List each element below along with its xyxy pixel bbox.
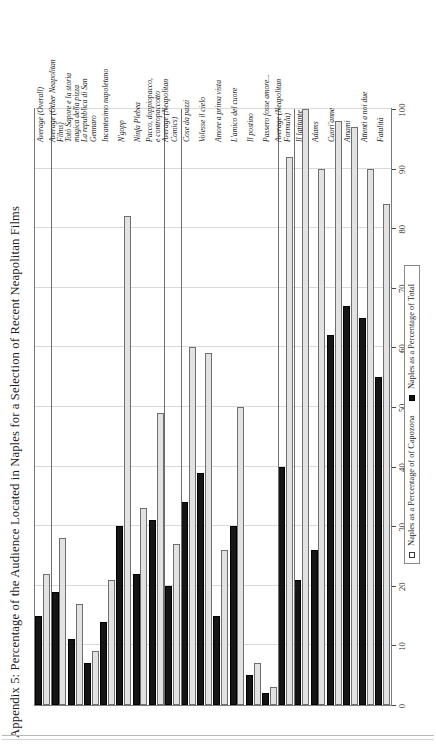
category-label: Incantesimo napoletano: [102, 12, 110, 142]
bar-total: [327, 335, 334, 705]
axis-tick: [392, 705, 396, 706]
bar-group: [359, 109, 375, 705]
bar-group: [164, 109, 180, 705]
bar-group: [342, 109, 358, 705]
legend-item-capozona: Naples as a Percentage of of Capozona: [407, 415, 416, 558]
axis-tick-label: 80: [397, 225, 407, 234]
axis-tick: [392, 347, 396, 348]
bar-total: [294, 580, 301, 705]
bar-group: [132, 109, 148, 705]
bar-capozona: [59, 538, 66, 705]
bar-group: [197, 109, 213, 705]
bar-capozona: [205, 353, 212, 705]
category-label: Amami: [344, 12, 352, 142]
bar-capozona: [254, 663, 261, 705]
axis-tick-label: 10: [397, 642, 407, 651]
bar-capozona: [270, 687, 277, 705]
bar-group: [262, 109, 278, 705]
bar-total: [165, 586, 172, 705]
category-label: Adams: [312, 12, 320, 142]
bar-capozona: [43, 574, 50, 705]
bar-capozona: [318, 169, 325, 705]
bar-total: [68, 639, 75, 705]
rotated-figure-wrapper: Appendix 5: Percentage of the Audience L…: [0, 0, 436, 746]
bar-capozona: [335, 121, 342, 705]
legend-swatch-light-icon: [409, 552, 415, 558]
group-separator: [294, 109, 295, 705]
bar-total: [133, 574, 140, 705]
axis-tick-label: 20: [397, 583, 407, 592]
category-label: Totò Sapore e la storia magica della piz…: [65, 12, 82, 142]
bar-group: [51, 109, 67, 705]
page-title: Appendix 5: Percentage of the Audience L…: [8, 8, 23, 738]
group-separator: [164, 109, 165, 705]
bar-group: [310, 109, 326, 705]
bar-total: [343, 306, 350, 705]
category-label: Ninfa Plebea: [134, 12, 142, 142]
page-rule-top: [2, 735, 434, 736]
bar-total: [311, 550, 318, 705]
bar-total: [375, 377, 382, 705]
legend-label-capozona: Naples as a Percentage of of Capozona: [407, 415, 416, 546]
category-label: Il latitante: [296, 12, 304, 142]
category-label: Average (Neapolitan Comics): [162, 12, 179, 142]
axis-tick: [392, 526, 396, 527]
axis-tick: [392, 109, 396, 110]
bar-capozona: [76, 604, 83, 705]
bar-total: [230, 526, 237, 705]
bar-group: [35, 109, 51, 705]
category-label: N'gopp: [118, 12, 126, 142]
bar-capozona: [124, 216, 131, 705]
axis-tick-label: 0: [397, 704, 407, 708]
bar-total: [84, 663, 91, 705]
group-separator: [181, 109, 182, 705]
bar-group: [116, 109, 132, 705]
bar-capozona: [92, 651, 99, 705]
category-label: L'amico del cuore: [231, 12, 239, 142]
axis-tick: [392, 467, 396, 468]
bar-capozona: [108, 580, 115, 705]
bar-capozona: [237, 407, 244, 705]
axis-tick: [392, 288, 396, 289]
bar-group: [375, 109, 391, 705]
category-label: Average (Neapolitan Formula): [275, 12, 292, 142]
bar-group: [67, 109, 83, 705]
bar-group: [84, 109, 100, 705]
bar-group: [148, 109, 164, 705]
bar-capozona: [383, 204, 390, 705]
bar-total: [52, 592, 59, 705]
axis-tick-label: 90: [397, 165, 407, 174]
category-label: Amore a prima vista: [215, 12, 223, 142]
chart-legend: Naples as a Percentage of of Capozona Na…: [404, 265, 420, 564]
chart-figure: Appendix 5: Percentage of the Audience L…: [0, 0, 436, 746]
bar-capozona: [173, 544, 180, 705]
bar-total: [35, 616, 42, 705]
bar-capozona: [367, 169, 374, 705]
bar-total: [149, 520, 156, 705]
plot-area: [34, 108, 392, 706]
bar-total: [262, 693, 269, 705]
axis-tick: [392, 645, 396, 646]
bar-group: [278, 109, 294, 705]
legend-label-total: Naples as a Percentage of Total: [407, 284, 416, 389]
category-label: Volesse il cielo: [199, 12, 207, 142]
bar-total: [116, 526, 123, 705]
axis-tick-label: 100: [397, 104, 407, 117]
bar-capozona: [286, 157, 293, 705]
bar-total: [100, 622, 107, 705]
group-separator: [51, 109, 52, 705]
category-label: Cuori'anne: [328, 12, 336, 142]
category-label: Fatalità: [377, 12, 385, 142]
category-label: Average (Other Neapolitan Films): [49, 12, 66, 142]
bar-total: [213, 616, 220, 705]
axis-tick: [392, 586, 396, 587]
bar-group: [326, 109, 342, 705]
category-label: Attenti a noi due: [361, 12, 369, 142]
axis-tick: [392, 407, 396, 408]
bar-capozona: [157, 413, 164, 705]
bar-capozona: [189, 347, 196, 705]
category-label: Il postino: [247, 12, 255, 142]
bar-group: [100, 109, 116, 705]
bar-group: [181, 109, 197, 705]
group-separator: [278, 109, 279, 705]
